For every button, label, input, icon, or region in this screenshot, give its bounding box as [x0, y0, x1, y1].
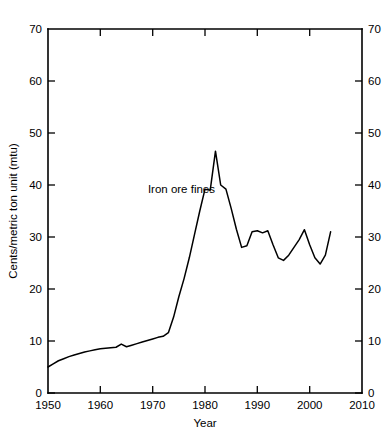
y-tick-label-left-60: 60: [29, 75, 42, 87]
x-tick-label-1950: 1950: [35, 399, 61, 411]
y-tick-label-left-50: 50: [29, 127, 42, 139]
y-axis-title: Cents/metric ton unit (mtu): [7, 143, 19, 279]
y-axis-left-ticks: 0 10 20 30 40 50 60 70: [29, 23, 55, 399]
y-tick-label-right-60: 60: [368, 75, 381, 87]
plot-frame: [48, 29, 362, 393]
y-tick-label-right-30: 30: [368, 231, 381, 243]
y-tick-label-left-30: 30: [29, 231, 42, 243]
series-annotation-label: Iron ore fines: [148, 183, 215, 195]
y-tick-label-left-10: 10: [29, 335, 42, 347]
y-tick-label-right-0: 0: [368, 387, 374, 399]
y-tick-label-right-70: 70: [368, 23, 381, 35]
x-tick-label-1960: 1960: [88, 399, 114, 411]
y-tick-label-left-70: 70: [29, 23, 42, 35]
y-tick-label-right-50: 50: [368, 127, 381, 139]
y-tick-label-right-20: 20: [368, 283, 381, 295]
y-tick-label-right-10: 10: [368, 335, 381, 347]
y-axis-right-ticks: 0 10 20 30 40 50 60 70: [355, 23, 381, 399]
y-tick-label-left-20: 20: [29, 283, 42, 295]
y-tick-label-right-40: 40: [368, 179, 381, 191]
x-tick-label-2000: 2000: [297, 399, 323, 411]
x-axis-ticks: 1950 1960 1970 1980 1990 2000 2010: [35, 29, 375, 411]
x-tick-label-1990: 1990: [245, 399, 271, 411]
y-tick-label-left-0: 0: [36, 387, 42, 399]
x-tick-label-1970: 1970: [140, 399, 166, 411]
x-tick-label-2010: 2010: [349, 399, 375, 411]
chart-figure: 0 10 20 30 40 50 60 70 0 10 20 30 40 50 …: [0, 0, 392, 445]
y-tick-label-left-40: 40: [29, 179, 42, 191]
x-axis-title: Year: [193, 417, 216, 429]
line-chart: 0 10 20 30 40 50 60 70 0 10 20 30 40 50 …: [0, 0, 392, 445]
x-tick-label-1980: 1980: [192, 399, 218, 411]
